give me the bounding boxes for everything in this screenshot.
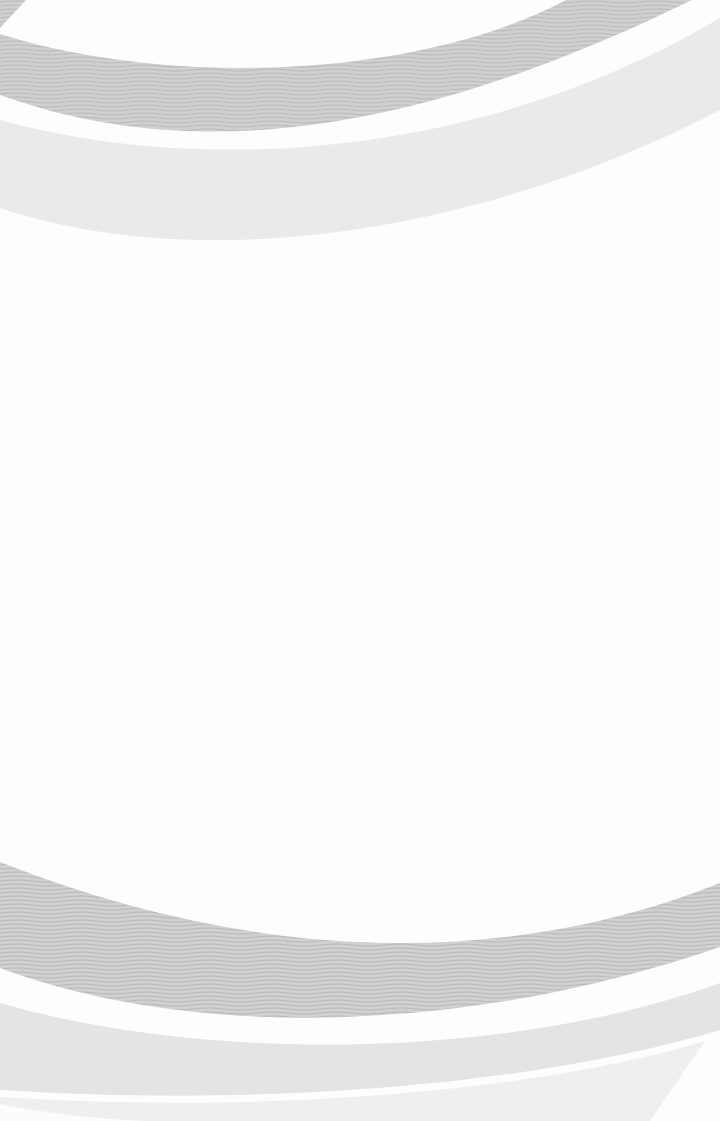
page-body-blank [0,240,720,831]
top-light-band [0,18,720,240]
blank-document-page [0,0,720,1121]
bottom-swoosh-decoration [0,831,720,1121]
top-corner-arc-band [0,0,26,28]
top-swoosh-decoration [0,0,720,240]
bottom-textured-band [0,862,720,1018]
